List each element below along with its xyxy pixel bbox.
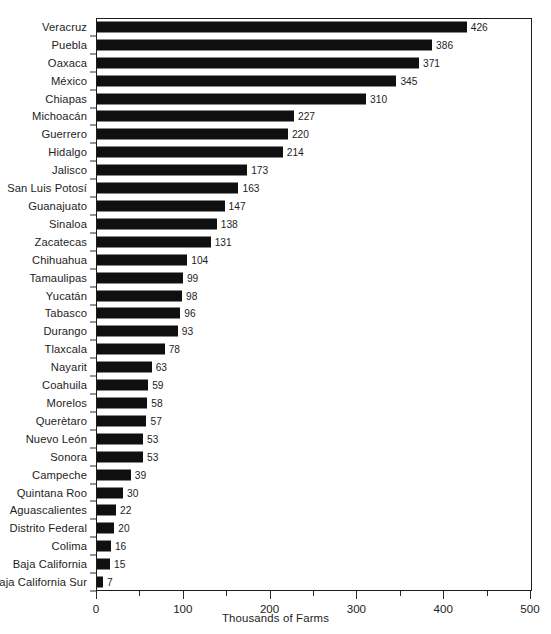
bar-value-label: 163 — [238, 183, 259, 194]
category-label: Baja California — [13, 558, 87, 570]
bar — [97, 147, 283, 158]
bar-value-label: 58 — [147, 397, 162, 408]
bar-value-label: 20 — [114, 523, 129, 534]
category-label: Querètaro — [36, 415, 87, 427]
bar-value-label: 53 — [143, 451, 158, 462]
x-axis-minor-tick — [400, 591, 401, 596]
category-label: Campeche — [32, 469, 87, 481]
bar-value-label: 98 — [182, 290, 197, 301]
category-label: San Luis Potosí — [7, 182, 87, 194]
category-label: Morelos — [47, 397, 88, 409]
category-label: Chihuahua — [32, 254, 87, 266]
bar-value-label: 386 — [432, 39, 453, 50]
bar — [97, 505, 116, 516]
bar — [97, 254, 187, 265]
bar-value-label: 345 — [396, 75, 417, 86]
bar-row: Baja California Sur7 — [0, 573, 551, 591]
bar — [97, 380, 148, 391]
bar-row: Tabasco96 — [0, 305, 551, 323]
bar — [97, 183, 238, 194]
category-label: Chiapas — [45, 93, 87, 105]
bar — [97, 93, 366, 104]
bar-row: Querètaro57 — [0, 412, 551, 430]
bar-row: Puebla386 — [0, 36, 551, 54]
bar — [97, 433, 143, 444]
bar-row: Quintana Roo30 — [0, 484, 551, 502]
bar — [97, 415, 146, 426]
bar — [97, 541, 111, 552]
bar-value-label: 78 — [165, 344, 180, 355]
bar-value-label: 53 — [143, 433, 158, 444]
category-label: Guanajuato — [28, 200, 87, 212]
x-axis-minor-tick — [226, 591, 227, 596]
bar-value-label: 7 — [103, 577, 113, 588]
bar-row: Veracruz426 — [0, 18, 551, 36]
bar-value-label: 214 — [283, 147, 304, 158]
bar-value-label: 147 — [225, 201, 246, 212]
category-label: Sonora — [50, 451, 87, 463]
bar-row: Nayarit63 — [0, 358, 551, 376]
category-label: Nuevo León — [26, 433, 87, 445]
bar-row: Jalisco173 — [0, 161, 551, 179]
bar-value-label: 93 — [178, 326, 193, 337]
bar-value-label: 63 — [152, 362, 167, 373]
bar — [97, 344, 165, 355]
bar-row: Chiapas310 — [0, 90, 551, 108]
bar-value-label: 426 — [467, 21, 488, 32]
bar-row: San Luis Potosí163 — [0, 179, 551, 197]
bar — [97, 111, 294, 122]
bar-row: Nuevo León53 — [0, 430, 551, 448]
bar — [97, 308, 180, 319]
x-axis: 0100200300400500 — [96, 591, 532, 592]
category-label: Tlaxcala — [45, 343, 87, 355]
bar — [97, 451, 143, 462]
bar-row: Durango93 — [0, 322, 551, 340]
bar-row: Hidalgo214 — [0, 143, 551, 161]
bar — [97, 559, 110, 570]
category-label: Oaxaca — [48, 57, 87, 69]
bar-value-label: 30 — [123, 487, 138, 498]
bar-row: Tlaxcala78 — [0, 340, 551, 358]
bar-value-label: 220 — [288, 129, 309, 140]
category-label: Zacatecas — [34, 236, 87, 248]
bar-row: Guerrero220 — [0, 125, 551, 143]
bar-rows-container: Veracruz426Puebla386Oaxaca371México345Ch… — [0, 18, 551, 591]
bar-value-label: 99 — [183, 272, 198, 283]
bar — [97, 469, 131, 480]
bar — [97, 165, 247, 176]
category-label: Veracruz — [42, 21, 87, 33]
category-label: Hidalgo — [48, 146, 87, 158]
bar-row: Chihuahua104 — [0, 251, 551, 269]
category-label: Jalisco — [52, 164, 87, 176]
category-label: Distrito Federal — [10, 522, 87, 534]
category-label: Puebla — [52, 39, 87, 51]
category-label: Nayarit — [51, 361, 87, 373]
x-axis-major-tick — [356, 591, 357, 599]
category-label: Aguascalientes — [10, 504, 87, 516]
x-axis-major-tick — [96, 591, 97, 599]
category-label: Guerrero — [41, 128, 87, 140]
category-label: Colima — [52, 540, 87, 552]
bar — [97, 487, 123, 498]
bar-value-label: 104 — [187, 254, 208, 265]
bar-row: Colima16 — [0, 537, 551, 555]
bar-value-label: 15 — [110, 559, 125, 570]
bar-row: Tamaulipas99 — [0, 269, 551, 287]
bar-value-label: 138 — [217, 218, 238, 229]
bar-row: Aguascalientes22 — [0, 501, 551, 519]
bar-row: Sonora53 — [0, 448, 551, 466]
bar-value-label: 131 — [211, 236, 232, 247]
bar — [97, 326, 178, 337]
x-axis-major-tick — [443, 591, 444, 599]
bar — [97, 129, 288, 140]
category-label: Durango — [43, 325, 87, 337]
bar-value-label: 173 — [247, 165, 268, 176]
bar-value-label: 310 — [366, 93, 387, 104]
bar — [97, 523, 114, 534]
bar-row: Michoacán227 — [0, 108, 551, 126]
x-axis-minor-tick — [487, 591, 488, 596]
bar-value-label: 227 — [294, 111, 315, 122]
bar — [97, 290, 182, 301]
bar-row: Yucatán98 — [0, 287, 551, 305]
bar-row: Coahuila59 — [0, 376, 551, 394]
